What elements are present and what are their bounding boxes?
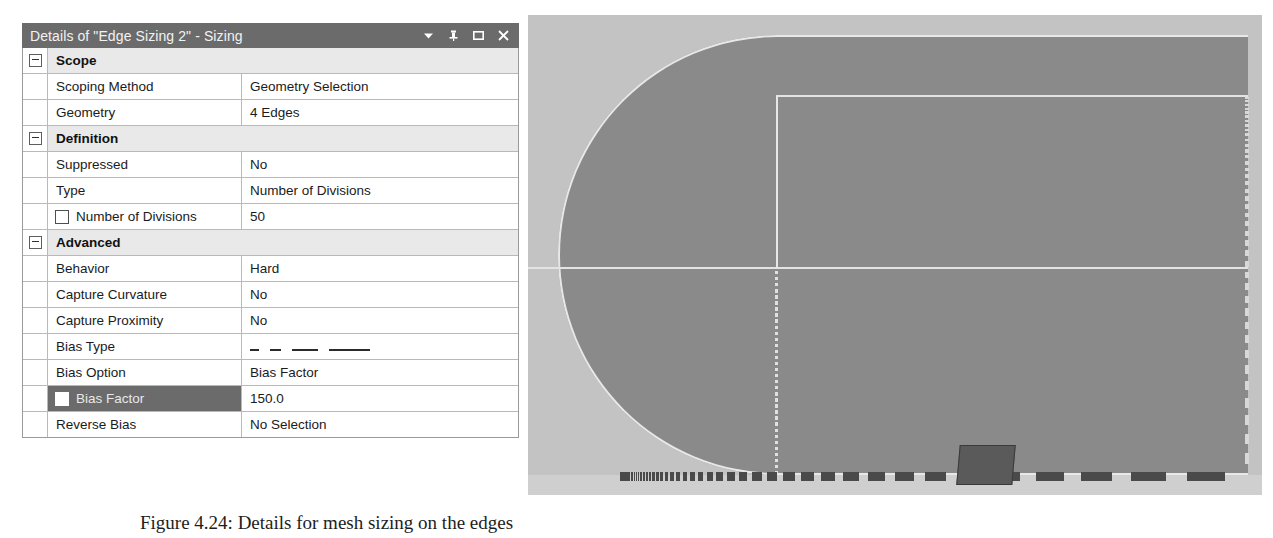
section-title: Scope (47, 48, 518, 73)
collapse-minus-icon[interactable] (29, 236, 42, 249)
property-value: 50 (250, 209, 265, 224)
property-row[interactable]: Number of Divisions50 (23, 204, 518, 230)
mesh-division-tick (775, 301, 778, 304)
mesh-division-tick (1245, 144, 1249, 147)
selection-marker[interactable] (956, 445, 1015, 485)
mesh-division-tick (1245, 100, 1249, 102)
property-row[interactable]: Bias OptionBias Factor (23, 360, 518, 386)
mesh-division-dash (636, 472, 637, 481)
mesh-division-tick (1245, 129, 1249, 132)
mesh-division-dash (716, 472, 723, 481)
property-label: Number of Divisions (76, 209, 197, 224)
property-value: No (250, 313, 267, 328)
mesh-division-tick (1245, 308, 1249, 315)
property-row[interactable]: Geometry4 Edges (23, 100, 518, 126)
mesh-division-dash (643, 472, 645, 481)
property-label-cell[interactable]: Type (48, 178, 242, 203)
property-value-cell[interactable]: Hard (242, 256, 518, 281)
mesh-division-tick (1245, 240, 1249, 246)
mesh-division-tick (775, 459, 778, 462)
mesh-division-dash (801, 472, 813, 481)
collapse-minus-icon[interactable] (29, 132, 42, 145)
property-row[interactable]: Bias Type (23, 334, 518, 360)
row-gutter (23, 256, 48, 281)
property-label-cell[interactable]: Number of Divisions (48, 204, 242, 229)
property-label-cell[interactable]: Capture Curvature (48, 282, 242, 307)
property-row[interactable]: Bias Factor150.0 (23, 386, 518, 412)
mesh-division-dash (698, 472, 703, 481)
property-label: Scoping Method (56, 79, 154, 94)
property-label-cell[interactable]: Capture Proximity (48, 308, 242, 333)
property-value-cell[interactable]: No (242, 152, 518, 177)
section-row[interactable]: Advanced (23, 230, 518, 256)
bias-type-graphic (250, 334, 370, 359)
mesh-division-tick (1245, 133, 1249, 136)
collapse-minus-icon[interactable] (29, 54, 42, 67)
mesh-division-tick (775, 435, 778, 438)
property-row[interactable]: Capture CurvatureNo (23, 282, 518, 308)
edge-line-mid-left (528, 267, 778, 269)
section-title: Advanced (47, 230, 518, 255)
mesh-division-tick (775, 271, 778, 274)
bias-dash (329, 349, 370, 351)
mesh-division-tick (775, 422, 778, 425)
property-value: No Selection (250, 417, 327, 432)
mesh-division-tick (1245, 213, 1249, 218)
mesh-division-tick (775, 344, 778, 347)
property-value: No (250, 287, 267, 302)
mesh-division-tick (775, 338, 778, 341)
row-gutter (23, 308, 48, 333)
mesh-division-tick (1245, 296, 1249, 303)
property-value-cell[interactable]: Number of Divisions (242, 178, 518, 203)
chevron-down-icon[interactable] (421, 28, 436, 43)
property-label: Geometry (56, 105, 115, 120)
property-value-cell[interactable]: No (242, 282, 518, 307)
property-label-cell[interactable]: Behavior (48, 256, 242, 281)
mesh-division-dash (783, 472, 794, 481)
property-label-cell[interactable]: Bias Type (48, 334, 242, 359)
mesh-division-tick (1245, 104, 1249, 106)
property-row[interactable]: Scoping MethodGeometry Selection (23, 74, 518, 100)
checkbox-icon[interactable] (55, 210, 69, 224)
property-value-cell[interactable]: No (242, 308, 518, 333)
property-value-cell[interactable]: Geometry Selection (242, 74, 518, 99)
mesh-division-tick (1245, 168, 1249, 172)
property-value-cell[interactable]: 50 (242, 204, 518, 229)
mesh-division-dash (690, 472, 695, 481)
geometry-viewport[interactable] (528, 15, 1262, 495)
property-label-cell[interactable]: Bias Factor (48, 386, 242, 411)
property-value: No (250, 157, 267, 172)
panel-title-bar[interactable]: Details of "Edge Sizing 2" - Sizing (22, 23, 519, 48)
property-value-cell[interactable]: 4 Edges (242, 100, 518, 125)
mesh-division-dash (707, 472, 713, 481)
mesh-division-dash (821, 472, 835, 481)
property-label: Type (56, 183, 85, 198)
property-label-cell[interactable]: Suppressed (48, 152, 242, 177)
property-row[interactable]: SuppressedNo (23, 152, 518, 178)
property-label-cell[interactable]: Bias Option (48, 360, 242, 385)
mesh-division-dash (683, 472, 687, 481)
maximize-icon[interactable] (471, 28, 486, 43)
close-icon[interactable] (496, 28, 511, 43)
property-label-cell[interactable]: Scoping Method (48, 74, 242, 99)
row-gutter (23, 412, 48, 437)
section-row[interactable]: Scope (23, 48, 518, 74)
section-row[interactable]: Definition (23, 126, 518, 152)
property-row[interactable]: Capture ProximityNo (23, 308, 518, 334)
property-value-cell[interactable] (242, 334, 518, 359)
mesh-division-tick (1245, 434, 1249, 445)
mesh-division-tick (775, 447, 778, 450)
property-row[interactable]: TypeNumber of Divisions (23, 178, 518, 204)
pin-icon[interactable] (446, 28, 461, 43)
property-value-cell[interactable]: Bias Factor (242, 360, 518, 385)
mesh-division-dash (767, 472, 777, 481)
property-value-cell[interactable]: No Selection (242, 412, 518, 437)
property-row[interactable]: BehaviorHard (23, 256, 518, 282)
property-row[interactable]: Reverse BiasNo Selection (23, 412, 518, 437)
property-label-cell[interactable]: Geometry (48, 100, 242, 125)
property-label-cell[interactable]: Reverse Bias (48, 412, 242, 437)
meshed-edge-vertical-right (1245, 97, 1249, 473)
property-value-cell[interactable]: 150.0 (242, 386, 518, 411)
checkbox-icon[interactable] (55, 392, 69, 406)
meshed-edge-vertical-center (775, 271, 778, 477)
